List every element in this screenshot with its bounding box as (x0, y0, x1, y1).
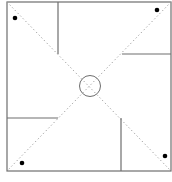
dot-top-right (155, 8, 160, 13)
dot-bottom-right (163, 154, 168, 159)
dot-top-left (13, 16, 18, 21)
diagonal-fold-lines (7, 2, 171, 171)
center-pin-circle (80, 76, 101, 97)
dot-bottom-left (20, 161, 25, 166)
pinwheel-diagram (0, 0, 172, 182)
